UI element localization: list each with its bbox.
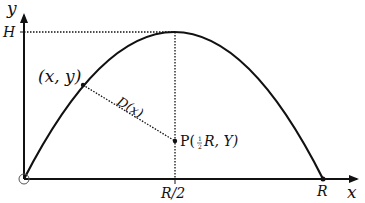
range-label: R xyxy=(316,183,328,199)
range-point xyxy=(321,177,326,182)
half-range-label: R/2 xyxy=(160,185,185,201)
point-on-curve xyxy=(81,83,85,87)
height-label: H xyxy=(2,24,16,40)
svg-text:P(: P( xyxy=(180,133,195,149)
trajectory-diagram: y x H (x, y) D(x) P( 1 2 R, Y) R/2 R xyxy=(0,0,365,203)
svg-text:R, Y): R, Y) xyxy=(203,133,238,149)
x-axis-label: x xyxy=(347,182,357,202)
svg-text:1: 1 xyxy=(198,135,202,142)
distance-label: D(x) xyxy=(114,93,147,121)
y-axis-label: y xyxy=(6,0,17,18)
trajectory-curve xyxy=(24,32,323,179)
point-p xyxy=(173,139,177,143)
point-on-curve-label: (x, y) xyxy=(38,66,81,86)
svg-text:2: 2 xyxy=(198,143,202,150)
point-p-label: P( 1 2 R, Y) xyxy=(180,133,238,150)
